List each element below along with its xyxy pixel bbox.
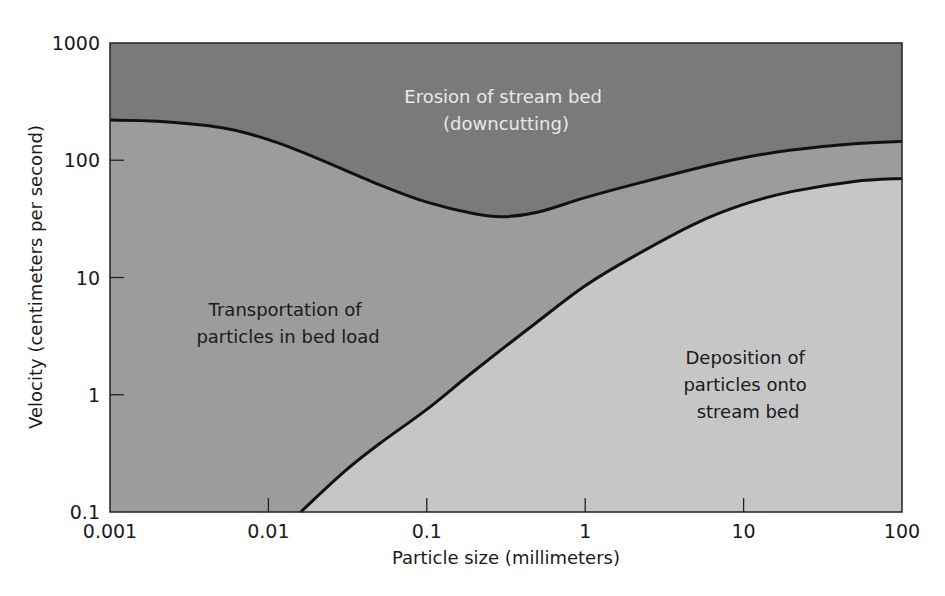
x-axis-title: Particle size (millimeters) <box>392 547 620 568</box>
y-tick-label: 1000 <box>52 32 100 54</box>
x-axis-tick-labels: 0.0010.010.1110100 <box>83 520 920 542</box>
y-axis-tick-labels: 0.11101001000 <box>52 32 100 523</box>
y-tick-label: 10 <box>76 267 100 289</box>
x-tick-label: 1 <box>579 520 591 542</box>
x-tick-label: 0.1 <box>412 520 442 542</box>
sediment-transport-chart: Erosion of stream bed (downcutting) Tran… <box>0 0 945 596</box>
y-axis-title: Velocity (centimeters per second) <box>25 125 46 429</box>
deposition-label: Deposition of particles onto stream bed <box>683 347 812 422</box>
x-tick-label: 10 <box>732 520 756 542</box>
y-tick-label: 0.1 <box>70 501 100 523</box>
y-tick-label: 100 <box>64 149 100 171</box>
y-tick-label: 1 <box>88 384 100 406</box>
x-tick-label: 100 <box>884 520 920 542</box>
x-tick-label: 0.001 <box>83 520 137 542</box>
x-tick-label: 0.01 <box>247 520 289 542</box>
